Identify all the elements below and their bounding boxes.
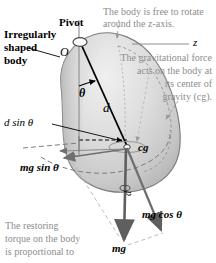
d-sin-theta-label: d sin θ — [4, 116, 33, 129]
gravity-note-line1: The gravitational force — [66, 52, 212, 65]
mg-cos-theta-label: mg cos θ — [142, 208, 182, 221]
mg-sin-theta-label: mg sin θ — [20, 161, 59, 174]
gravity-note-line3: its center of — [66, 78, 212, 91]
torque-note-line1: The restoring — [5, 220, 59, 233]
gravity-note-line4: gravity (cg). — [66, 91, 212, 104]
z-axis-label: z — [193, 36, 197, 49]
rotation-note-line2: around the z-axis. — [103, 18, 174, 31]
d-vertical-label: d — [122, 191, 134, 196]
irregular-body-label-line1: Irregularly — [4, 28, 56, 41]
cg-label: cg — [138, 141, 148, 154]
torque-note-line3: is proportional to — [5, 246, 74, 259]
torque-note-line2: torque on the body — [5, 233, 80, 246]
pivot-label: Pivot — [59, 16, 83, 29]
physics-diagram-rigid-body-pendulum: Pivot Irregularly shaped body O z θ d cg… — [0, 0, 216, 263]
rotation-note-line1: The body is free to rotate — [103, 6, 204, 19]
gravity-note-line2: acts on the body at — [66, 65, 212, 78]
irregular-body-label-line2: shaped — [4, 41, 37, 54]
mg-label: mg — [112, 242, 126, 255]
pivot-marker — [73, 38, 87, 47]
irregular-body-label-line3: body — [4, 54, 27, 67]
